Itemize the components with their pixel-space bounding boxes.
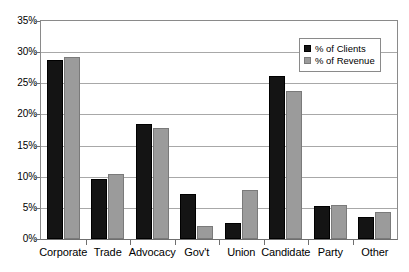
x-axis-tick-mark xyxy=(219,240,220,245)
x-axis-tick-mark xyxy=(130,240,131,245)
bar xyxy=(153,128,169,239)
x-axis-tick-mark xyxy=(308,240,309,245)
bar xyxy=(136,124,152,239)
bar-group xyxy=(86,21,131,239)
bar-chart: 0%5%10%15%20%25%30%35% CorporateTradeAdv… xyxy=(0,0,409,272)
bar xyxy=(180,194,196,239)
y-axis-tick-label: 25% xyxy=(0,78,37,88)
y-axis-tick-label: 35% xyxy=(0,16,37,26)
y-axis-tick-label: 0% xyxy=(0,234,37,244)
bar-group xyxy=(130,21,175,239)
x-axis-tick-mark xyxy=(86,240,87,245)
bar-group xyxy=(219,21,264,239)
bar xyxy=(64,57,80,239)
bar xyxy=(242,190,258,239)
x-axis-tick-mark xyxy=(175,240,176,245)
bar xyxy=(286,91,302,239)
bar xyxy=(108,174,124,239)
legend-item: % of Revenue xyxy=(304,55,375,66)
legend-item-label: % of Clients xyxy=(315,44,366,54)
x-axis-tick-label: Other xyxy=(345,246,406,259)
y-axis-tick-label: 20% xyxy=(0,109,37,119)
legend-swatch-icon xyxy=(304,57,311,64)
bar-group xyxy=(41,21,86,239)
y-axis-tick-label: 10% xyxy=(0,172,37,182)
bar xyxy=(375,212,391,239)
bar xyxy=(197,226,213,239)
bar xyxy=(91,179,107,239)
bar xyxy=(47,60,63,239)
bar-group xyxy=(175,21,220,239)
bar xyxy=(269,76,285,239)
y-axis-tick-label: 5% xyxy=(0,203,37,213)
x-axis-tick-mark xyxy=(353,240,354,245)
y-axis-tick-label: 15% xyxy=(0,141,37,151)
legend-item-label: % of Revenue xyxy=(315,56,375,66)
x-axis-tick-mark xyxy=(264,240,265,245)
bar xyxy=(225,223,241,239)
legend-item: % of Clients xyxy=(304,43,375,54)
bar xyxy=(331,205,347,239)
y-axis-tick-label: 30% xyxy=(0,47,37,57)
chart-legend: % of Clients% of Revenue xyxy=(299,38,381,72)
bar xyxy=(358,217,374,239)
bar xyxy=(314,206,330,239)
legend-swatch-icon xyxy=(304,45,311,52)
